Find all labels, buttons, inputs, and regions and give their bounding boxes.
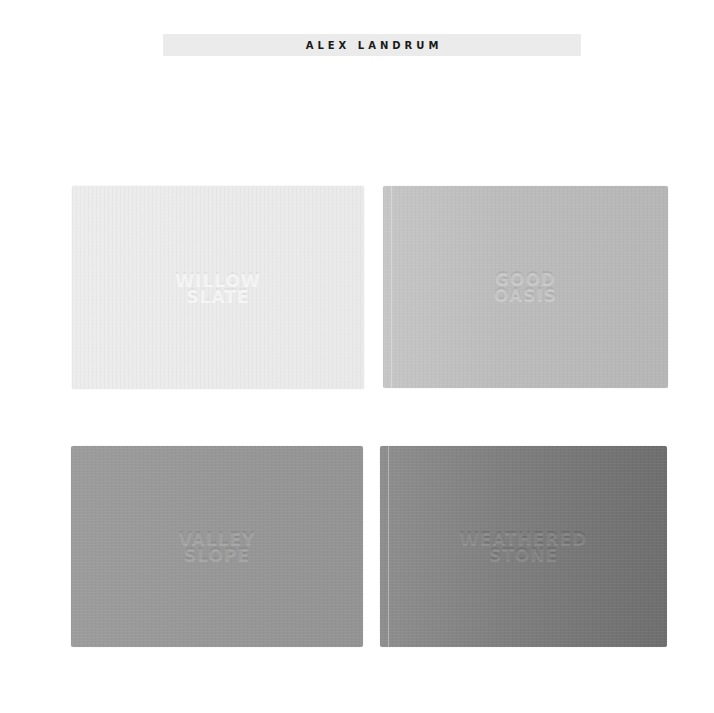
swatch-embossed-text: WEATHERED STONE <box>380 531 667 563</box>
page-title: ALEX LANDRUM <box>302 40 443 51</box>
swatch-embossed-text: GOOD OASIS <box>383 271 668 303</box>
swatch-card-4: WEATHERED STONE <box>380 446 667 647</box>
swatch-embossed-text: WILLOW SLATE <box>72 272 364 304</box>
title-bar: ALEX LANDRUM <box>163 34 581 56</box>
swatch-card-3: VALLEY SLOPE <box>71 446 363 647</box>
swatch-card-2: GOOD OASIS <box>383 186 668 388</box>
swatch-embossed-text: VALLEY SLOPE <box>71 531 363 563</box>
swatch-card-1: WILLOW SLATE <box>72 186 364 389</box>
